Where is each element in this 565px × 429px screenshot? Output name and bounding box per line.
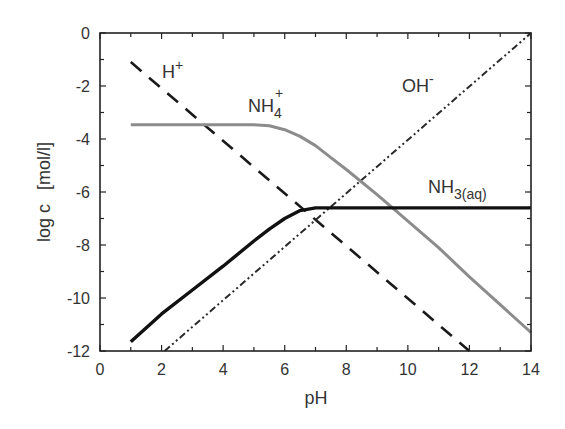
series-line-nh4- bbox=[131, 125, 531, 333]
y-tick-label: -6 bbox=[76, 184, 90, 201]
series-label-h-plus: H+ bbox=[162, 57, 183, 82]
y-tick-label: -4 bbox=[76, 131, 90, 148]
series-label-nh3-aq: NH3(aq) bbox=[428, 177, 487, 202]
x-tick-label: 4 bbox=[219, 361, 228, 378]
x-tick-label: 14 bbox=[522, 361, 540, 378]
x-tick-label: 10 bbox=[399, 361, 417, 378]
x-tick-label: 6 bbox=[280, 361, 289, 378]
y-tick-label: -10 bbox=[67, 290, 90, 307]
y-tick-label: -2 bbox=[76, 78, 90, 95]
y-tick-label: 0 bbox=[81, 25, 90, 42]
x-tick-label: 12 bbox=[461, 361, 479, 378]
x-tick-label: 0 bbox=[96, 361, 105, 378]
y-axis-title-unit: [mol/l] bbox=[34, 142, 54, 190]
chart: 024681012140-2-4-6-8-10-12 pH log c[mol/… bbox=[0, 0, 565, 429]
x-tick-label: 2 bbox=[157, 361, 166, 378]
y-axis-title-main: log c bbox=[34, 204, 54, 242]
x-axis-title: pH bbox=[304, 388, 327, 408]
series-label-oh-minus: OH- bbox=[402, 71, 434, 96]
y-tick-label: -12 bbox=[67, 343, 90, 360]
series-line-nh3-aq- bbox=[131, 208, 531, 342]
y-tick-label: -8 bbox=[76, 237, 90, 254]
y-axis-title: log c[mol/l] bbox=[34, 142, 54, 242]
series-label-nh4-plus-charge: + bbox=[275, 85, 283, 101]
x-tick-label: 8 bbox=[342, 361, 351, 378]
